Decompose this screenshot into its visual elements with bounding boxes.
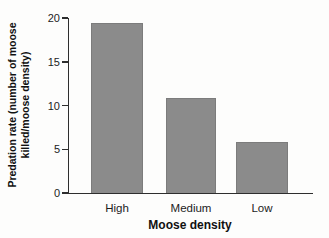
y-tick-label-5: 5 [33,143,60,155]
bar-high [91,23,143,193]
y-tick-5 [62,149,68,151]
x-category-label-high: High [82,202,152,215]
y-axis-label: Predation rate (number of moose killed/m… [6,5,34,205]
bar-medium [166,98,216,193]
y-tick-label-20: 20 [33,12,60,24]
y-tick-label-15: 15 [33,56,60,68]
x-axis-label: Moose density [68,218,312,232]
predation-rate-bar-chart: Predation rate (number of moose killed/m… [0,0,329,238]
x-category-label-low: Low [227,202,297,215]
y-tick-20 [62,17,68,19]
y-tick-10 [62,105,68,107]
plot-area: 05101520HighMediumLow [68,18,313,194]
y-tick-label-10: 10 [33,100,60,112]
y-tick-15 [62,61,68,63]
bar-low [236,142,288,193]
x-category-label-medium: Medium [156,202,226,215]
y-tick-label-0: 0 [33,187,60,199]
y-tick-0 [62,192,68,194]
